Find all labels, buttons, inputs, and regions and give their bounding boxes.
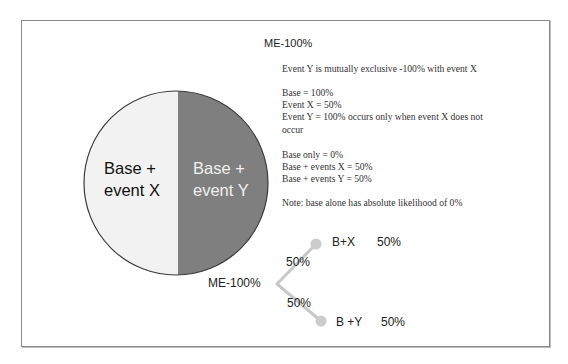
tree-node-bx-label: B+X xyxy=(332,235,355,249)
pie-label-event-y: Base + event Y xyxy=(193,157,249,201)
pie-label-event-x: Base + event X xyxy=(104,157,160,201)
probability-tree xyxy=(277,239,327,327)
tree-node-by-label: B +Y xyxy=(336,315,362,329)
tree-node-by xyxy=(316,316,327,327)
diagram-graphics xyxy=(0,0,568,364)
tree-lower-edge-label: 50% xyxy=(287,296,311,310)
tree-upper-edge-label: 50% xyxy=(286,255,310,269)
tree-root-label: ME-100% xyxy=(208,276,261,290)
tree-node-bx-value: 50% xyxy=(377,235,401,249)
tree-node-by-value: 50% xyxy=(381,315,405,329)
tree-node-bx xyxy=(311,239,322,250)
